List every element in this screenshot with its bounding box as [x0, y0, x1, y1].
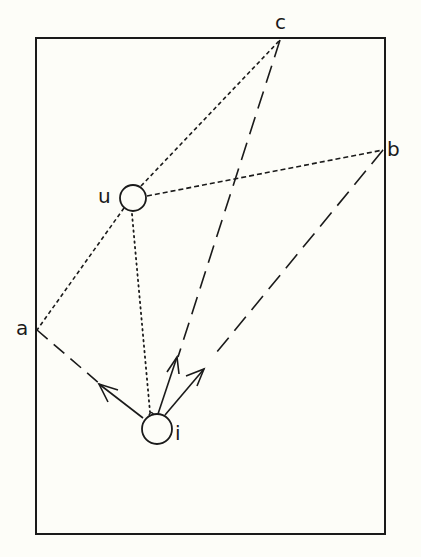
label-c: c — [275, 12, 286, 32]
line-u-to-c — [141, 40, 280, 186]
arrow-to-a — [99, 384, 143, 418]
line-c-dashed — [178, 40, 280, 357]
label-u: u — [98, 186, 111, 206]
arrow-to-c — [158, 357, 179, 414]
line-u-to-a — [37, 208, 124, 330]
label-i: i — [175, 423, 181, 443]
label-b: b — [387, 139, 400, 159]
label-a: a — [16, 318, 28, 338]
object-i-circle — [142, 414, 172, 444]
line-a-dashed — [37, 330, 100, 384]
line-u-to-b — [147, 150, 383, 196]
line-b-dashed — [212, 150, 383, 358]
object-u-circle — [120, 185, 146, 211]
diagram-canvas — [0, 0, 421, 557]
line-u-to-i — [132, 214, 150, 412]
